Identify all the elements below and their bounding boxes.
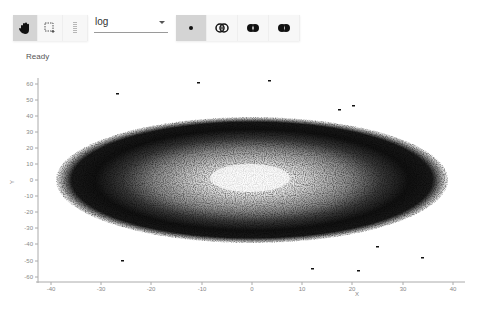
svg-text:10: 10 <box>26 161 33 167</box>
svg-text:20: 20 <box>26 145 33 151</box>
svg-text:40: 40 <box>450 286 457 292</box>
svg-text:-20: -20 <box>147 286 156 292</box>
svg-text:-40: -40 <box>47 286 56 292</box>
y-axis <box>35 78 38 283</box>
x-axis <box>36 282 465 285</box>
svg-text:-20: -20 <box>24 209 33 215</box>
svg-text:-10: -10 <box>24 193 33 199</box>
svg-text:0: 0 <box>30 177 34 183</box>
svg-text:50: 50 <box>26 97 33 103</box>
svg-text:-40: -40 <box>24 241 33 247</box>
svg-text:30: 30 <box>26 129 33 135</box>
svg-text:-30: -30 <box>97 286 106 292</box>
heatmap-body <box>56 117 448 243</box>
svg-text:-60: -60 <box>24 274 33 280</box>
svg-text:40: 40 <box>26 113 33 119</box>
svg-text:60: 60 <box>26 81 33 87</box>
x-tick-labels: -40 -30 -20 -10 0 10 20 30 40 <box>47 286 457 292</box>
svg-text:10: 10 <box>299 286 306 292</box>
x-axis-label: X <box>355 291 359 297</box>
heatmap-chart[interactable]: 60 50 40 30 20 10 0 -10 -20 -30 -40 -50 … <box>0 0 477 310</box>
svg-text:-50: -50 <box>24 258 33 264</box>
svg-text:-10: -10 <box>198 286 207 292</box>
svg-text:0: 0 <box>250 286 254 292</box>
y-tick-labels: 60 50 40 30 20 10 0 -10 -20 -30 -40 -50 … <box>24 81 33 280</box>
svg-text:30: 30 <box>400 286 407 292</box>
svg-text:-30: -30 <box>24 225 33 231</box>
y-axis-label: Y <box>9 180 15 184</box>
